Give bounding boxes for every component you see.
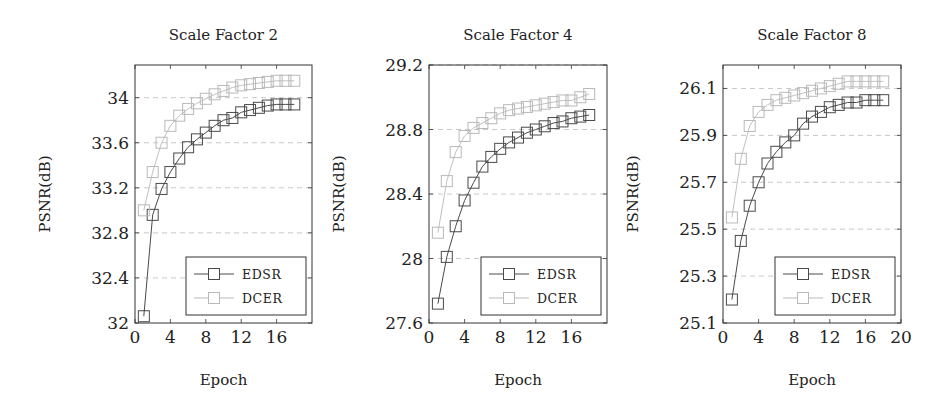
- legend: EDSRDCER: [186, 257, 306, 315]
- legend-label: DCER: [537, 291, 578, 306]
- y-tick-label: 28.4: [385, 184, 423, 204]
- legend-label: DCER: [242, 291, 283, 306]
- x-tick-label: 0: [718, 327, 729, 347]
- x-tick-label: 16: [855, 327, 877, 347]
- y-tick-label: 33.2: [91, 178, 129, 198]
- chart-title: Scale Factor 4: [463, 26, 572, 44]
- legend-label: EDSR: [831, 267, 871, 282]
- x-tick-label: 12: [230, 327, 252, 347]
- legend: EDSRDCER: [775, 257, 895, 315]
- x-axis-label: Epoch: [788, 371, 836, 389]
- y-tick-label: 25.9: [679, 125, 717, 145]
- y-tick-label: 33.6: [91, 133, 129, 153]
- y-tick-label: 28.8: [385, 120, 423, 140]
- legend-square-icon: [798, 293, 809, 304]
- y-tick-label: 29.2: [385, 55, 423, 75]
- chart-scale-factor-4: Scale Factor 4048121627.62828.428.829.2E…: [330, 26, 607, 389]
- legend-label: EDSR: [537, 267, 577, 282]
- chart-scale-factor-2: Scale Factor 204812163232.432.833.233.63…: [36, 26, 312, 389]
- legend-box: [775, 257, 895, 315]
- x-tick-label: 16: [561, 327, 583, 347]
- x-tick-label: 4: [459, 327, 470, 347]
- series-dcer: [432, 89, 594, 239]
- chart-title: Scale Factor 8: [757, 26, 866, 44]
- y-tick-label: 25.3: [679, 266, 717, 286]
- x-tick-label: 12: [819, 327, 841, 347]
- y-axis-label: PSNR(dB): [36, 155, 54, 232]
- legend-square-icon: [209, 293, 220, 304]
- legend-box: [481, 257, 601, 315]
- x-tick-label: 8: [495, 327, 506, 347]
- legend-label: EDSR: [242, 267, 282, 282]
- legend-square-icon: [504, 269, 515, 280]
- x-tick-label: 16: [266, 327, 288, 347]
- y-axis-label: PSNR(dB): [624, 155, 642, 232]
- x-tick-label: 8: [200, 327, 211, 347]
- y-tick-label: 25.1: [679, 313, 717, 333]
- x-axis-label: Epoch: [200, 371, 248, 389]
- y-tick-label: 28: [401, 249, 423, 269]
- y-tick-label: 32: [107, 313, 129, 333]
- chart-title: Scale Factor 2: [169, 26, 278, 44]
- legend: EDSRDCER: [481, 257, 601, 315]
- legend-square-icon: [504, 293, 515, 304]
- y-tick-label: 32.4: [91, 268, 129, 288]
- x-tick-label: 4: [165, 327, 176, 347]
- legend-box: [186, 257, 306, 315]
- y-tick-label: 25.5: [679, 219, 717, 239]
- chart-scale-factor-8: Scale Factor 804812162025.125.325.525.72…: [624, 26, 912, 389]
- x-tick-label: 0: [130, 327, 141, 347]
- legend-square-icon: [798, 269, 809, 280]
- x-axis-label: Epoch: [494, 371, 542, 389]
- data-point-marker: [726, 294, 737, 305]
- x-tick-label: 0: [424, 327, 435, 347]
- data-point-marker: [138, 205, 149, 216]
- x-tick-label: 20: [890, 327, 912, 347]
- x-tick-label: 12: [525, 327, 547, 347]
- y-tick-label: 25.7: [679, 172, 717, 192]
- legend-square-icon: [209, 269, 220, 280]
- y-tick-label: 27.6: [385, 313, 423, 333]
- legend-label: DCER: [831, 291, 872, 306]
- chart-canvas: Scale Factor 204812163232.432.833.233.63…: [0, 0, 943, 411]
- y-tick-label: 26.1: [679, 78, 717, 98]
- x-tick-label: 8: [789, 327, 800, 347]
- series-dcer: [726, 76, 888, 223]
- y-tick-label: 32.8: [91, 223, 129, 243]
- y-tick-label: 34: [107, 88, 129, 108]
- x-tick-label: 4: [753, 327, 764, 347]
- y-axis-label: PSNR(dB): [330, 155, 348, 232]
- figure: Scale Factor 204812163232.432.833.233.63…: [0, 0, 943, 411]
